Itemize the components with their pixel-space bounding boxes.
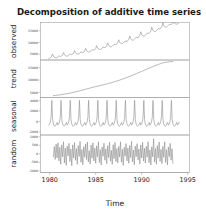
y-tick-label: 1000 bbox=[30, 135, 38, 139]
decomposition-plot: Decomposition of additive time series 50… bbox=[0, 0, 206, 211]
x-tick-label: 1980 bbox=[42, 176, 58, 184]
y-tick-label: 5000 bbox=[30, 91, 38, 95]
y-tick-label: 5000 bbox=[30, 52, 38, 56]
y-tick-label: 0 bbox=[36, 152, 38, 156]
y-tick-label: 2000 bbox=[30, 109, 38, 113]
y-tick-label: 4000 bbox=[30, 99, 38, 103]
x-tick-label: 1985 bbox=[88, 176, 104, 184]
page-title: Decomposition of additive time series bbox=[17, 7, 201, 17]
x-tick-label: 1995 bbox=[180, 176, 196, 184]
panel-label-random: random bbox=[9, 140, 18, 168]
y-tick-label: 0 bbox=[36, 120, 38, 124]
y-tick-label: 10000 bbox=[28, 78, 38, 82]
x-tick-label: 1990 bbox=[134, 176, 150, 184]
y-tick-label: -1000 bbox=[29, 169, 38, 173]
y-tick-label: 15000 bbox=[28, 29, 38, 33]
y-tick-label: 15000 bbox=[28, 66, 38, 70]
y-tick-label: 10000 bbox=[28, 41, 38, 45]
x-axis-label: Time bbox=[105, 199, 125, 208]
panel-label-seasonal: seasonal bbox=[9, 100, 18, 132]
y-tick-label: 500 bbox=[32, 143, 38, 147]
y-tick-label: -2000 bbox=[29, 130, 38, 134]
y-tick-label: -500 bbox=[31, 160, 38, 164]
panel-label-observed: observed bbox=[9, 25, 18, 58]
panel-label-trend: trend bbox=[9, 69, 18, 88]
